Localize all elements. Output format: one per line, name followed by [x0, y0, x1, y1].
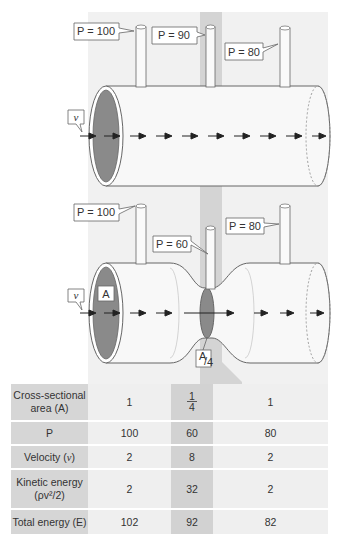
svg-text:P = 100: P = 100: [77, 25, 115, 37]
svg-text:4: 4: [207, 356, 213, 368]
table-row: Velocity (v) 2 8 2: [11, 446, 328, 468]
cell: 82: [213, 510, 328, 534]
table-row: P 100 60 80: [11, 422, 328, 444]
row-label: Total energy (E): [11, 510, 88, 534]
cell: 60: [171, 422, 213, 444]
cell: 80: [213, 422, 328, 444]
cell: 2: [88, 446, 171, 468]
cell: 1: [88, 384, 171, 420]
svg-text:P = 80: P = 80: [228, 46, 260, 58]
cell: 2: [213, 446, 328, 468]
velocity-label-top: v: [68, 110, 84, 132]
cell: 8: [171, 446, 213, 468]
row-label: Velocity (v): [11, 446, 88, 468]
svg-text:P = 80: P = 80: [229, 220, 261, 232]
table-row: Total energy (E) 102 92 82: [11, 510, 328, 534]
row-label: Cross-sectionalarea (A): [11, 384, 88, 420]
row-label: P: [11, 422, 88, 444]
bernoulli-diagram: P = 100 P = 90 P = 80 v: [0, 0, 342, 385]
fraction-one-quarter: 14: [187, 391, 197, 412]
svg-text:v: v: [74, 289, 79, 301]
svg-text:A: A: [102, 288, 110, 300]
svg-text:v: v: [74, 111, 79, 123]
cell: 14: [171, 384, 213, 420]
table-row: Cross-sectionalarea (A) 1 14 1: [11, 384, 328, 420]
table-row: Kinetic energy(ρv²/2) 2 32 2: [11, 470, 328, 508]
cell: 102: [88, 510, 171, 534]
pressure-label-top-2: P = 90: [152, 27, 205, 44]
row-label: Kinetic energy(ρv²/2): [11, 470, 88, 508]
cell: 32: [171, 470, 213, 508]
cell: 1: [213, 384, 328, 420]
cell: 2: [213, 470, 328, 508]
energy-table: Cross-sectionalarea (A) 1 14 1 P 100 60 …: [11, 382, 328, 536]
svg-text:P = 100: P = 100: [77, 206, 115, 218]
velocity-label-bottom: v: [68, 289, 84, 310]
cell: 2: [88, 470, 171, 508]
svg-text:P = 60: P = 60: [156, 238, 188, 250]
svg-text:P = 90: P = 90: [158, 29, 190, 41]
cell: 92: [171, 510, 213, 534]
cell: 100: [88, 422, 171, 444]
area-label: A: [98, 286, 114, 301]
